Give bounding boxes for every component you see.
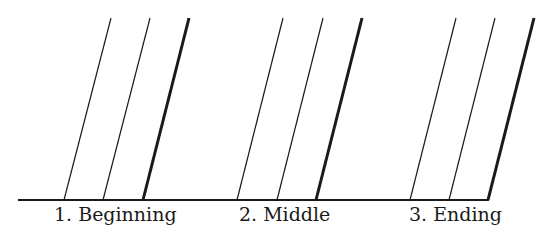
stage-label-middle: 2. Middle <box>239 203 330 225</box>
thin-slant-line <box>64 18 111 200</box>
stage-label-ending: 3. Ending <box>409 203 502 225</box>
stage-label-beginning: 1. Beginning <box>54 203 177 225</box>
slanted-lines <box>64 18 534 200</box>
thick-slant-line <box>316 18 362 200</box>
thin-slant-line <box>237 18 283 200</box>
thick-slant-line <box>488 18 534 200</box>
thin-slant-line <box>103 18 150 200</box>
thin-slant-line <box>277 18 323 200</box>
thin-slant-line <box>449 18 495 200</box>
thin-slant-line <box>410 18 456 200</box>
thick-slant-line <box>143 18 189 200</box>
